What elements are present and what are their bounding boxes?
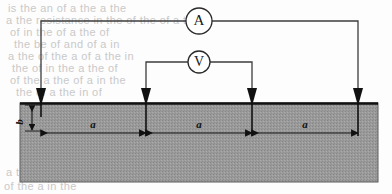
ammeter-label: A [194, 12, 205, 28]
ground-body [20, 103, 378, 182]
ground-fill-rect [20, 103, 378, 182]
wenner-array-diagram: A V [0, 0, 392, 194]
spacing-label-2: a [196, 118, 202, 130]
voltmeter-wire-right [210, 62, 252, 104]
spacing-label-3: a [302, 118, 308, 130]
ammeter[interactable]: A [186, 8, 212, 34]
depth-dimension-label: b [13, 119, 25, 125]
spacing-label-1: a [90, 118, 96, 130]
voltmeter-wire-left [146, 62, 188, 104]
resistivity-array-figure: is the an of a the a the a the resistanc… [0, 0, 392, 194]
voltmeter[interactable]: V [188, 51, 210, 73]
voltmeter-label: V [194, 54, 204, 69]
